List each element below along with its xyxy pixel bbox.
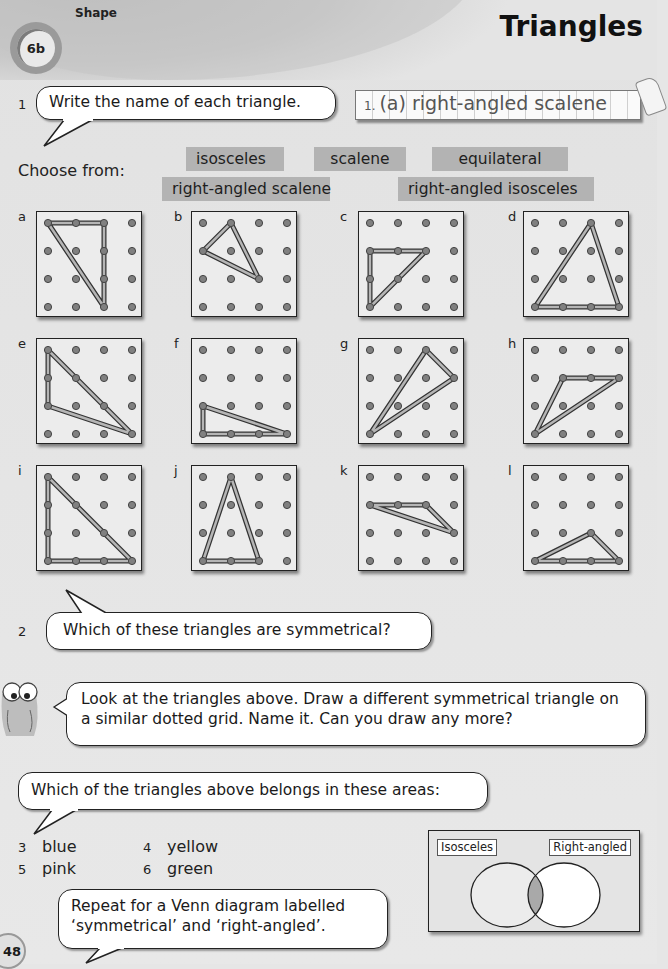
choice-equilateral: equilateral <box>432 147 568 171</box>
choice-isosceles: isosceles <box>186 147 284 171</box>
geoboard-a <box>36 211 142 317</box>
geoboard-i <box>36 465 142 571</box>
venn-diagram: Isosceles Right-angled <box>428 830 640 932</box>
owl-tip-text: Look at the triangles above. Draw a diff… <box>81 690 619 728</box>
grid-label-f: f <box>174 336 179 351</box>
geoboard-h <box>523 338 629 444</box>
question-2-number: 2 <box>18 624 26 639</box>
geoboard-g <box>358 338 464 444</box>
owl-tip-bubble: Look at the triangles above. Draw a diff… <box>66 682 646 746</box>
example-answer-text: (a) right-angled scalene <box>379 92 607 114</box>
example-answer-number: 1. <box>364 99 375 113</box>
followup-bubble-tail <box>84 947 124 964</box>
grid-label-k: k <box>340 463 348 478</box>
grid-label-c: c <box>340 209 347 224</box>
owl-tip-bubble-tail <box>52 696 70 718</box>
question-2-bubble: Which of these triangles are symmetrical… <box>46 612 432 650</box>
question-1-bubble-tail <box>36 118 96 148</box>
grid-label-b: b <box>174 209 182 224</box>
choose-from-label: Choose from: <box>18 161 125 180</box>
question-2-bubble-tail <box>60 588 110 616</box>
venn-item-pink: 5pink <box>18 859 76 878</box>
grid-label-l: l <box>508 463 512 478</box>
venn-item-green: 6green <box>143 859 213 878</box>
grid-label-a: a <box>18 209 26 224</box>
choice-scalene: scalene <box>314 147 406 171</box>
grid-label-e: e <box>18 336 26 351</box>
owl-mascot-icon <box>0 680 40 740</box>
question-1-prompt: Write the name of each triangle. <box>49 93 301 111</box>
grid-label-h: h <box>508 336 516 351</box>
followup-text: Repeat for a Venn diagram labelled ‘symm… <box>71 897 345 935</box>
grid-label-g: g <box>340 336 348 351</box>
choice-right-angled-scalene: right-angled scalene <box>162 177 330 201</box>
venn-item-blue: 3blue <box>18 837 77 856</box>
geoboard-k <box>358 465 464 571</box>
venn-circles <box>429 831 641 933</box>
grid-label-d: d <box>508 209 516 224</box>
unit-badge-ring: 6b <box>10 22 62 74</box>
page-title: Triangles <box>499 10 643 43</box>
unit-badge: 6b <box>17 29 55 67</box>
question-2-prompt: Which of these triangles are symmetrical… <box>63 621 391 639</box>
venn-question-bubble-tail <box>30 808 80 836</box>
geoboard-b <box>191 211 297 317</box>
geoboard-j <box>191 465 297 571</box>
geoboard-f <box>191 338 297 444</box>
geoboard-e <box>36 338 142 444</box>
venn-item-yellow: 4yellow <box>143 837 218 856</box>
followup-bubble: Repeat for a Venn diagram labelled ‘symm… <box>58 889 388 949</box>
unit-label: Shape <box>75 6 117 20</box>
page-number: 48 <box>0 933 26 969</box>
grid-label-j: j <box>174 463 178 478</box>
venn-question-prompt: Which of the triangles above belongs in … <box>31 781 440 799</box>
geoboard-d <box>523 211 629 317</box>
geoboard-l <box>523 465 629 571</box>
venn-question-bubble: Which of the triangles above belongs in … <box>18 772 488 810</box>
choice-right-angled-isosceles: right-angled isosceles <box>398 177 594 201</box>
question-1-number: 1 <box>18 97 26 112</box>
example-answer-box: 1.(a) right-angled scalene <box>355 90 641 120</box>
question-1-bubble: Write the name of each triangle. <box>36 86 336 120</box>
geoboard-c <box>358 211 464 317</box>
grid-label-i: i <box>18 463 22 478</box>
